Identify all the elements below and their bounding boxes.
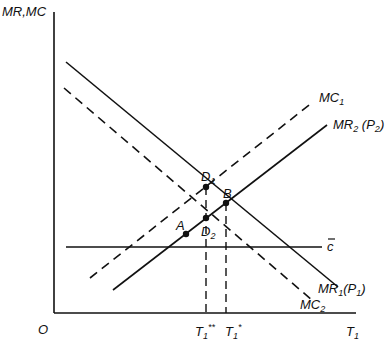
diagram-canvas: MR,MC O T1 c MR1(P1) MC2 MC1 MR2 (P2) D1…	[0, 0, 387, 346]
point-d2-label: D2	[201, 224, 215, 241]
origin-label: O	[38, 322, 48, 337]
t1-star-label: T1*	[225, 322, 242, 341]
mc2-label: MC2	[300, 297, 325, 314]
mr2-curve	[113, 125, 327, 290]
mr1-label: MR1(P1)	[318, 281, 366, 298]
x-axis-label: T1	[346, 324, 359, 341]
point-a-label: A	[175, 218, 185, 233]
t1-double-star-label: T1**	[195, 322, 215, 341]
mc1-label: MC1	[319, 90, 344, 107]
point-b-label: B	[223, 186, 232, 201]
mc2-curve	[64, 88, 312, 300]
svg-text:c: c	[327, 239, 334, 254]
y-axis-label: MR,MC	[2, 4, 47, 19]
mc1-curve	[90, 102, 313, 278]
cbar-label: c	[327, 239, 335, 254]
point-d2	[203, 215, 209, 221]
mr2-label: MR2 (P2)	[333, 117, 384, 134]
point-d1-label: D1	[201, 169, 215, 186]
point-d1	[203, 184, 209, 190]
